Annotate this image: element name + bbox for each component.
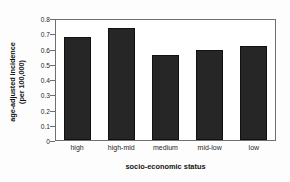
- x-tick-label-mid-low: mid-low: [188, 144, 232, 151]
- bar-high-mid: [108, 28, 135, 140]
- y-tick-label-0.5: 0.5: [24, 61, 50, 68]
- x-tick-label-high-mid: high-mid: [99, 144, 143, 151]
- bar-high: [64, 37, 91, 140]
- y-tick-label-0.3: 0.3: [24, 92, 50, 99]
- bar-chart-figure: age-adjusted incidence (per 100,000) 00.…: [0, 0, 290, 182]
- x-tick-label-high: high: [55, 144, 99, 151]
- y-tick-mark-0: [50, 141, 55, 142]
- y-tick-label-0.2: 0.2: [24, 107, 50, 114]
- y-tick-label-0.4: 0.4: [24, 77, 50, 84]
- bar-medium: [152, 55, 179, 140]
- x-tick-label-medium: medium: [143, 144, 187, 151]
- y-axis-title-line-1: age-adjusted incidence: [8, 42, 17, 122]
- x-axis-title: socio-economic status: [55, 162, 276, 171]
- y-tick-label-0.1: 0.1: [24, 122, 50, 129]
- y-tick-label-0.7: 0.7: [24, 31, 50, 38]
- y-tick-label-0.8: 0.8: [24, 16, 50, 23]
- x-tick-label-low: low: [232, 144, 276, 151]
- plot-area: [55, 19, 276, 141]
- bar-low: [240, 46, 267, 140]
- y-tick-label-0.6: 0.6: [24, 46, 50, 53]
- y-tick-label-0: 0: [24, 138, 50, 145]
- bar-series: [56, 20, 275, 140]
- x-axis-tick-labels: highhigh-midmediummid-lowlow: [55, 144, 276, 151]
- bar-mid-low: [196, 50, 223, 140]
